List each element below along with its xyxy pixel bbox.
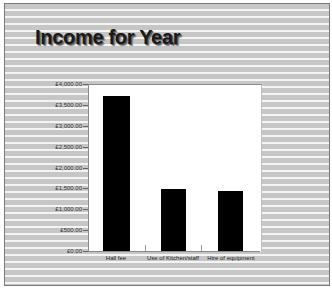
y-tick-label: £3,500.00: [22, 102, 82, 108]
y-tick: [83, 209, 88, 210]
chart-title: Income for Year: [35, 26, 180, 49]
x-tick: [201, 245, 202, 251]
y-tick: [83, 188, 88, 189]
x-tick: [145, 245, 146, 251]
y-tick: [83, 147, 88, 148]
y-tick-label: £2,000.00: [22, 165, 82, 171]
y-tick-label: £1,000.00: [22, 206, 82, 212]
y-tick: [83, 168, 88, 169]
bar-hall-fee: [103, 96, 130, 251]
y-tick: [83, 126, 88, 127]
y-tick-label: £500.00: [22, 227, 82, 233]
y-tick-label: £3,000.00: [22, 123, 82, 129]
y-tick-label: £2,500.00: [22, 144, 82, 150]
bar-hire-of-equipment: [218, 191, 243, 251]
y-tick: [83, 230, 88, 231]
y-tick: [83, 105, 88, 106]
y-tick-label: £0.00: [22, 248, 82, 254]
y-tick-label: £4,000.00: [22, 81, 82, 87]
x-axis-line: [88, 251, 260, 252]
y-tick: [83, 84, 88, 85]
y-tick: [83, 251, 88, 252]
x-label-hire-of-equipment: Hire of equipment: [191, 255, 271, 261]
bar-use-of-kitchen-staff: [161, 189, 186, 251]
y-tick-label: £1,500.00: [22, 185, 82, 191]
